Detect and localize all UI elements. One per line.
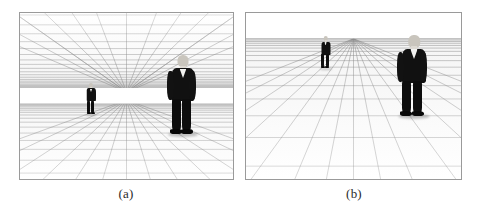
near-person-left-arm bbox=[167, 71, 174, 100]
far-person-right-arm bbox=[93, 90, 95, 101]
panel-a-caption: (a) bbox=[96, 186, 156, 202]
near-person-left-leg bbox=[402, 81, 411, 113]
near-person-left-shoe bbox=[170, 129, 182, 134]
panel-a-near-person bbox=[166, 55, 200, 135]
near-person-left-shoe bbox=[400, 111, 412, 116]
near-person-right-leg bbox=[413, 81, 422, 113]
near-person-right-shoe bbox=[412, 111, 424, 116]
near-person-right-leg bbox=[182, 99, 191, 130]
near-person-right-shoe bbox=[181, 129, 193, 134]
far-person-right-leg bbox=[91, 101, 94, 114]
panel-b-image bbox=[245, 12, 462, 180]
panel-a-far-person bbox=[85, 83, 97, 115]
panel-b-far-person bbox=[319, 36, 332, 69]
panel-a-scene bbox=[20, 13, 233, 179]
panel-b-caption: (b) bbox=[324, 186, 384, 202]
figure-panel-row: (a) (b) bbox=[0, 0, 478, 209]
panel-b-near-person bbox=[396, 35, 432, 117]
panel-a-image bbox=[19, 12, 234, 180]
far-person-left-leg bbox=[87, 101, 90, 114]
near-person-left-leg bbox=[172, 99, 181, 130]
far-person-right-arm bbox=[328, 43, 331, 55]
near-person-right-arm bbox=[420, 52, 427, 82]
far-person-right-leg bbox=[326, 54, 329, 67]
far-person-left-leg bbox=[321, 54, 324, 67]
near-person-left-arm bbox=[397, 52, 404, 82]
near-person-right-arm bbox=[189, 71, 196, 100]
